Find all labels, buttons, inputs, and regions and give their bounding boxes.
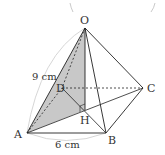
- dimension-oa-label: 9 cm: [32, 71, 57, 82]
- label-d: D: [56, 82, 65, 95]
- edge-oc: [85, 28, 143, 88]
- label-a: A: [13, 128, 23, 141]
- label-h: H: [80, 114, 90, 127]
- label-b: B: [108, 134, 116, 147]
- decorative-arc-right: [151, 3, 155, 12]
- pyramid-diagram: O A B C D H 9 cm 6 cm: [0, 0, 165, 155]
- decorative-arc-left: [70, 3, 73, 12]
- label-o: O: [80, 14, 89, 27]
- label-c: C: [147, 82, 155, 95]
- dimension-ab-label: 6 cm: [55, 139, 80, 150]
